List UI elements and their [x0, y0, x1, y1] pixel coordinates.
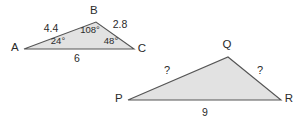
side-length-ac: 6 — [74, 53, 80, 64]
figure-canvas — [0, 0, 298, 126]
angle-measure-a: 24° — [51, 36, 65, 46]
side-length-bc: 2.8 — [113, 19, 128, 30]
angle-measure-b: 108° — [80, 25, 100, 35]
angle-measure-c: 48° — [104, 36, 118, 46]
geometry-figure: A B C 4.4 2.8 6 24° 108° 48° P Q R ? ? 9 — [0, 0, 298, 126]
vertex-label-a: A — [11, 42, 19, 54]
vertex-label-b: B — [90, 5, 98, 17]
vertex-label-q: Q — [222, 39, 231, 51]
side-length-ab: 4.4 — [44, 23, 59, 34]
vertex-label-p: P — [115, 93, 123, 105]
side-length-pr: 9 — [202, 107, 208, 118]
vertex-label-c: C — [138, 43, 146, 55]
side-length-qr: ? — [257, 65, 263, 76]
vertex-label-r: R — [285, 93, 293, 105]
side-length-pq: ? — [164, 65, 170, 76]
